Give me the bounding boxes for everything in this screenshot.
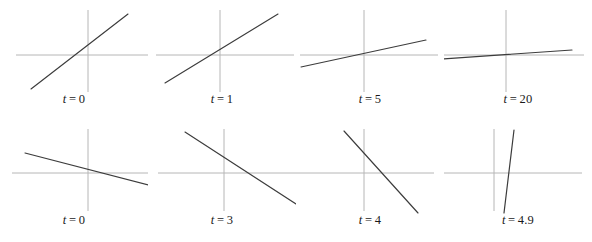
plot-area-7 [444, 121, 592, 217]
panel-t-20: t=20 [444, 0, 592, 121]
panel-t-1: t=1 [148, 0, 296, 121]
panel-t-5: t=5 [296, 0, 444, 121]
data-line-7 [504, 130, 514, 213]
panel-caption-6: t=4 [296, 213, 444, 228]
caption-value-0: 0 [79, 92, 85, 106]
caption-variable-1: t [211, 92, 215, 106]
plot-area-4 [0, 121, 148, 217]
data-line-4 [25, 153, 148, 186]
panel-t-0-top: t=0 [0, 0, 148, 121]
plot-area-1 [148, 0, 296, 96]
caption-variable-2: t [359, 92, 363, 106]
data-line-6 [344, 131, 418, 213]
caption-variable-7: t [502, 213, 506, 227]
plot-area-2 [296, 0, 444, 96]
panel-t-3: t=3 [148, 121, 296, 242]
caption-variable-4: t [63, 213, 67, 227]
panel-caption-4: t=0 [0, 213, 148, 228]
panel-row-bottom: t=0 t=3 t=4 [0, 121, 592, 242]
caption-value-7: 4.9 [518, 213, 534, 227]
figure-panel-grid: t=0 t=1 t=5 [0, 0, 592, 242]
caption-value-3: 20 [520, 92, 533, 106]
caption-equals-5: = [217, 213, 224, 227]
caption-equals-2: = [365, 92, 372, 106]
panel-caption-2: t=5 [296, 92, 444, 107]
data-line-0 [31, 14, 128, 89]
panel-caption-5: t=3 [148, 213, 296, 228]
panel-caption-0: t=0 [0, 92, 148, 107]
caption-value-6: 4 [375, 213, 381, 227]
panel-caption-1: t=1 [148, 92, 296, 107]
panel-row-top: t=0 t=1 t=5 [0, 0, 592, 121]
caption-variable-3: t [504, 92, 508, 106]
caption-equals-3: = [510, 92, 517, 106]
caption-equals-4: = [69, 213, 76, 227]
caption-equals-1: = [217, 92, 224, 106]
caption-value-4: 0 [79, 213, 85, 227]
caption-value-5: 3 [227, 213, 233, 227]
caption-variable-6: t [359, 213, 363, 227]
plot-area-6 [296, 121, 444, 217]
caption-variable-0: t [63, 92, 67, 106]
panel-caption-7: t=4.9 [444, 213, 592, 228]
data-line-1 [165, 14, 278, 83]
panel-t-4: t=4 [296, 121, 444, 242]
plot-area-5 [148, 121, 296, 217]
panel-t-4-9: t=4.9 [444, 121, 592, 242]
panel-t-0-bottom: t=0 [0, 121, 148, 242]
caption-equals-7: = [508, 213, 515, 227]
caption-value-1: 1 [227, 92, 233, 106]
plot-area-3 [444, 0, 592, 96]
panel-caption-3: t=20 [444, 92, 592, 107]
caption-equals-6: = [365, 213, 372, 227]
caption-value-2: 5 [375, 92, 381, 106]
plot-area-0 [0, 0, 148, 96]
caption-equals-0: = [69, 92, 76, 106]
caption-variable-5: t [211, 213, 215, 227]
data-line-5 [185, 132, 296, 204]
